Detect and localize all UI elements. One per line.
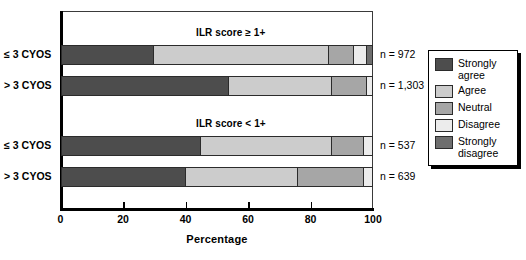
x-tick-label-60: 60 <box>242 213 254 225</box>
bar-0 <box>61 45 374 65</box>
x-tick-label-40: 40 <box>180 213 192 225</box>
legend-item-neutral[interactable]: Neutral <box>435 101 512 115</box>
legend-item-strongly-disagree[interactable]: Strongly disagree <box>435 135 512 159</box>
bar-segment-neutral <box>332 76 366 96</box>
bar-segment-agree <box>186 167 299 187</box>
legend-label: Neutral <box>458 101 492 113</box>
bar-segment-strongly-agree <box>61 136 202 156</box>
x-tick-label-0: 0 <box>58 213 64 225</box>
n-label-2: n = 537 <box>380 139 415 151</box>
group-title-ilr-ge-1: ILR score ≥ 1+ <box>196 27 265 38</box>
category-label-0: ≤ 3 CYOS <box>4 48 56 60</box>
bar-segment-strongly-agree <box>61 45 155 65</box>
legend-item-disagree[interactable]: Disagree <box>435 118 512 132</box>
n-label-1: n = 1,303 <box>380 79 424 91</box>
legend-label: Strongly agree <box>458 57 497 81</box>
category-label-3: > 3 CYOS <box>4 170 56 182</box>
legend-label: Strongly disagree <box>458 135 498 159</box>
bar-segment-strongly-disagree <box>367 45 373 65</box>
legend-swatch-icon <box>435 119 453 132</box>
legend-label: Disagree <box>458 118 500 130</box>
bar-segment-strongly-agree <box>61 76 230 96</box>
bar-segment-neutral <box>332 136 363 156</box>
bar-segment-agree <box>229 76 332 96</box>
legend-swatch-icon <box>435 136 453 149</box>
x-tick-40 <box>186 202 188 209</box>
bar-3 <box>61 167 374 187</box>
x-tick-80 <box>311 202 313 209</box>
x-tick-label-100: 100 <box>364 213 382 225</box>
x-axis-line <box>60 208 374 211</box>
group-title-ilr-lt-1: ILR score < 1+ <box>196 118 266 129</box>
bar-segment-disagree <box>354 45 367 65</box>
bar-segment-neutral <box>298 167 364 187</box>
x-tick-20 <box>123 202 125 209</box>
legend-swatch-icon <box>435 58 453 71</box>
x-tick-60 <box>248 202 250 209</box>
bar-segment-disagree <box>364 136 373 156</box>
bar-1 <box>61 76 374 96</box>
x-tick-label-20: 20 <box>117 213 129 225</box>
bar-segment-agree <box>201 136 332 156</box>
category-label-1: > 3 CYOS <box>4 79 56 91</box>
x-axis-title: Percentage <box>60 233 374 245</box>
bar-2 <box>61 136 374 156</box>
n-label-0: n = 972 <box>380 48 415 60</box>
legend: Strongly agreeAgreeNeutralDisagreeStrong… <box>428 50 518 166</box>
legend-item-strongly-agree[interactable]: Strongly agree <box>435 57 512 81</box>
bar-segment-disagree <box>364 167 373 187</box>
legend-label: Agree <box>458 84 486 96</box>
bar-segment-agree <box>154 45 329 65</box>
x-tick-label-80: 80 <box>305 213 317 225</box>
legend-swatch-icon <box>435 85 453 98</box>
category-label-2: ≤ 3 CYOS <box>4 139 56 151</box>
bar-segment-neutral <box>329 45 354 65</box>
bar-segment-strongly-agree <box>61 167 186 187</box>
legend-swatch-icon <box>435 102 453 115</box>
n-label-3: n = 639 <box>380 170 415 182</box>
bar-segment-disagree <box>367 76 373 96</box>
legend-item-agree[interactable]: Agree <box>435 84 512 98</box>
